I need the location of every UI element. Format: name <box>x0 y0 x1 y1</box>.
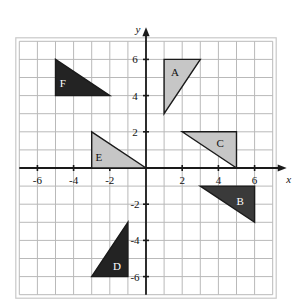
y-tick-label-neg4: -4 <box>130 235 139 246</box>
shape-label-f: F <box>60 77 66 88</box>
figure-canvas: -6-4-2246642-2-4-6xyABCDEF <box>0 0 294 300</box>
x-tick-label-neg4: -4 <box>69 175 78 186</box>
y-tick-label-neg6: -6 <box>130 271 139 282</box>
x-tick-label-4: 4 <box>216 175 222 186</box>
shape-label-a: A <box>171 67 179 78</box>
coordinate-plane <box>0 0 294 300</box>
shape-label-b: B <box>236 195 243 206</box>
y-axis-label: y <box>136 24 141 35</box>
y-tick-label-2: 2 <box>132 126 138 137</box>
shape-label-e: E <box>96 152 103 163</box>
x-axis-label: x <box>286 174 291 185</box>
x-tick-label-neg6: -6 <box>33 175 42 186</box>
x-tick-label-6: 6 <box>252 175 258 186</box>
y-tick-label-6: 6 <box>132 54 138 65</box>
shape-label-d: D <box>113 260 121 271</box>
x-tick-label-2: 2 <box>179 175 185 186</box>
x-tick-label-neg2: -2 <box>105 175 114 186</box>
y-tick-label-neg2: -2 <box>130 199 139 210</box>
shape-label-c: C <box>217 137 224 148</box>
y-tick-label-4: 4 <box>132 90 138 101</box>
